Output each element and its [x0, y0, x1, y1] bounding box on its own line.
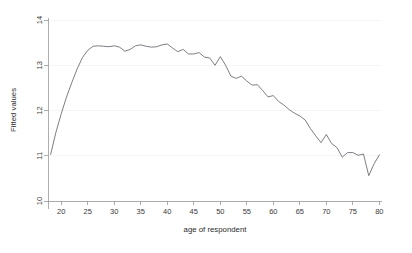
x-tick-group: 20253035404550556065707580	[57, 201, 383, 216]
y-tick-group: 1011121314	[35, 16, 48, 205]
x-tick-label: 55	[243, 207, 251, 216]
x-axis: 20253035404550556065707580	[48, 201, 384, 216]
x-tick-label: 60	[269, 207, 277, 216]
x-axis-title: age of respondent	[184, 225, 248, 234]
x-tick-label: 20	[57, 207, 65, 216]
x-tick-label: 25	[84, 207, 92, 216]
y-tick-label: 11	[35, 152, 44, 160]
x-tick-label: 35	[137, 207, 145, 216]
x-tick-label: 70	[322, 207, 330, 216]
x-tick-label: 45	[190, 207, 198, 216]
x-tick-label: 75	[349, 207, 357, 216]
fitted-values-line-chart: 1011121314 20253035404550556065707580 ag…	[0, 0, 412, 253]
x-tick-label: 80	[375, 207, 383, 216]
y-tick-label: 10	[35, 197, 44, 205]
x-tick-label: 65	[296, 207, 304, 216]
y-tick-label: 12	[35, 106, 44, 114]
y-axis-title: Fitted values	[9, 88, 18, 132]
x-tick-label: 50	[216, 207, 224, 216]
y-tick-label: 13	[35, 61, 44, 69]
y-tick-label: 14	[35, 16, 44, 24]
y-axis: 1011121314	[35, 16, 48, 209]
x-tick-label: 40	[163, 207, 171, 216]
chart-container: 1011121314 20253035404550556065707580 ag…	[0, 0, 412, 253]
x-tick-label: 30	[110, 207, 118, 216]
gridlines	[48, 20, 382, 201]
